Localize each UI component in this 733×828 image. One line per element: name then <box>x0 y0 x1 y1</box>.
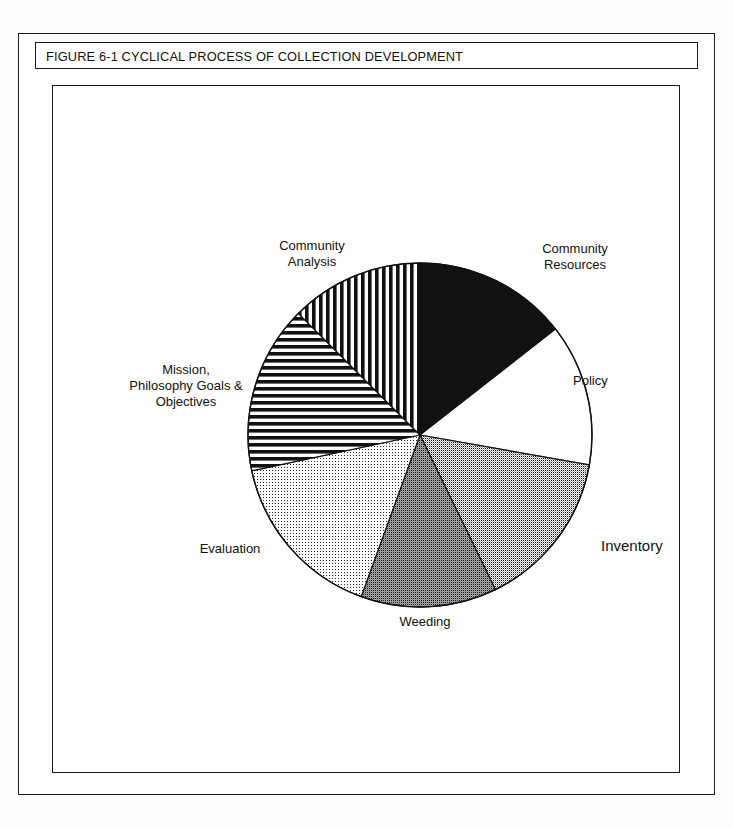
slice-label-policy: Policy <box>573 373 683 389</box>
figure-caption-bar: FIGURE 6-1 CYCLICAL PROCESS OF COLLECTIO… <box>35 42 698 69</box>
pie-slices <box>248 263 592 607</box>
slice-label-community-resources: Community Resources <box>505 241 645 273</box>
figure-caption-text: FIGURE 6-1 CYCLICAL PROCESS OF COLLECTIO… <box>46 48 463 63</box>
page-background: FIGURE 6-1 CYCLICAL PROCESS OF COLLECTIO… <box>0 0 733 828</box>
figure-inner-frame: Community Resources Policy Inventory Wee… <box>52 85 680 773</box>
slice-label-community-analysis: Community Analysis <box>237 238 387 270</box>
slice-label-inventory: Inventory <box>601 538 721 554</box>
slice-label-weeding: Weeding <box>365 614 485 630</box>
figure-outer-frame: FIGURE 6-1 CYCLICAL PROCESS OF COLLECTIO… <box>18 33 715 795</box>
slice-label-evaluation: Evaluation <box>165 541 295 557</box>
pie-chart: Community Resources Policy Inventory Wee… <box>53 86 679 772</box>
pie-chart-svg <box>53 86 681 774</box>
slice-label-mission: Mission, Philosophy Goals & Objectives <box>91 362 281 410</box>
